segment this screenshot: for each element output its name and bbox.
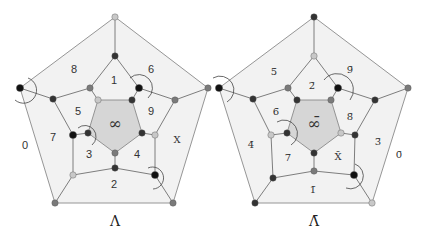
face-label: 3̄ [375, 136, 381, 147]
graph-node [69, 131, 76, 138]
face-label: 9 [148, 105, 154, 117]
graph-node [285, 85, 291, 91]
face-label: 5 [75, 105, 81, 117]
graph-node [151, 171, 158, 178]
graph-node [334, 84, 341, 91]
graph-node [215, 84, 222, 91]
graph-node [268, 132, 274, 138]
graph-node [152, 132, 158, 138]
graph-node [52, 200, 58, 206]
face-label: 4 [134, 148, 140, 160]
graph-node [70, 172, 76, 178]
graph-node [139, 130, 145, 136]
face-label: 0̄ [396, 149, 402, 160]
graph-node [205, 85, 211, 91]
graph-node [311, 168, 317, 174]
graph-node [95, 97, 101, 103]
face-label: 5̄ [271, 66, 277, 77]
graph-node [250, 96, 256, 102]
graph-node [294, 97, 300, 103]
face-label: 4̄ [248, 139, 254, 150]
face-label: 8 [71, 63, 77, 75]
graph-node [369, 200, 375, 206]
diagram-title: Λ̄ [308, 213, 320, 229]
face-label: 1̄ [310, 184, 316, 195]
face-label: 6 [148, 63, 154, 75]
graph-node [372, 97, 378, 103]
face-label: 8̄ [347, 111, 353, 122]
face-label: 6̄ [273, 106, 279, 117]
lambda-diagram: 8 6 1 5 9 X 0 7 3 4 2 ∞ Λ [15, 14, 211, 229]
graph-node [270, 175, 276, 181]
lambda-bar-diagram: 5̄ 9̄ 2̄ 6̄ 8̄ 3̄ 0̄ 4̄ 7̄ X̄ 1̄ ∞̄ Λ̄ [213, 14, 411, 229]
diagram-title: Λ [109, 213, 121, 229]
graph-node [112, 14, 118, 20]
face-label: 3 [86, 148, 92, 160]
graph-node [328, 97, 334, 103]
diagram-canvas: 8 6 1 5 9 X 0 7 3 4 2 ∞ Λ 5̄ 9̄ 2̄ [0, 0, 421, 244]
graph-node [252, 200, 258, 206]
graph-node [311, 14, 317, 20]
graph-node [129, 97, 135, 103]
graph-node [405, 85, 411, 91]
graph-node [170, 200, 176, 206]
face-label: 9̄ [347, 64, 353, 75]
face-label: X [173, 134, 181, 145]
graph-node [311, 53, 317, 59]
graph-node [311, 150, 317, 156]
graph-node [284, 130, 290, 136]
graph-node [112, 165, 118, 171]
graph-node [172, 97, 178, 103]
infinity-label: ∞̄ [307, 114, 320, 133]
graph-node [350, 171, 357, 178]
graph-node [87, 85, 93, 91]
graph-node [112, 150, 118, 156]
face-label: 2̄ [309, 80, 315, 91]
graph-node [135, 84, 142, 91]
face-label: 7 [50, 131, 56, 143]
face-label: 7̄ [285, 152, 291, 163]
graph-node [85, 130, 91, 136]
face-label: X̄ [334, 151, 342, 162]
face-label: 2 [111, 178, 117, 190]
graph-node [112, 53, 118, 59]
graph-node [16, 84, 23, 91]
graph-node [352, 132, 358, 138]
infinity-label: ∞ [108, 114, 121, 133]
graph-node [338, 130, 344, 136]
graph-node [50, 96, 56, 102]
face-label: 0 [22, 139, 28, 151]
face-label: 1 [111, 74, 117, 86]
